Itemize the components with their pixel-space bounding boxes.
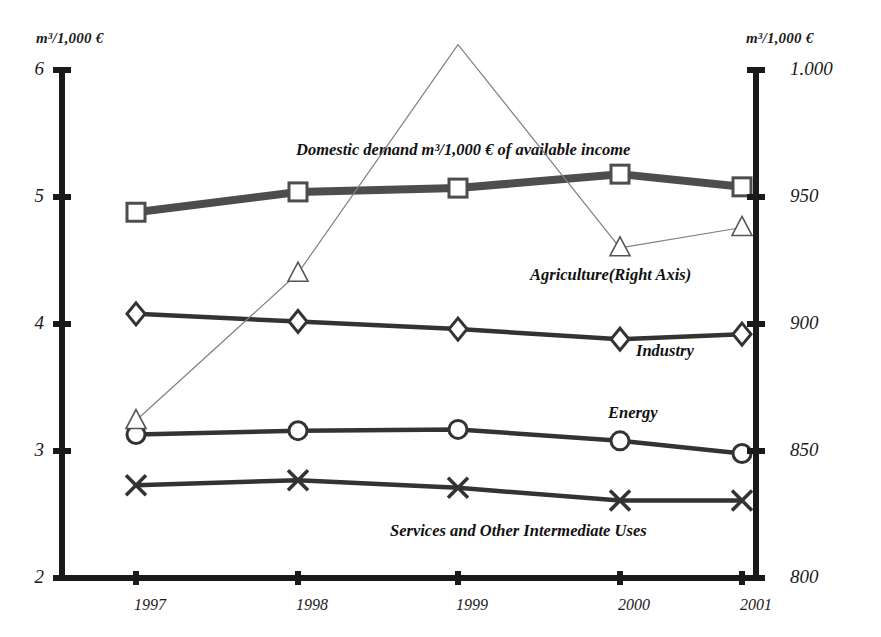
triangle-marker [126, 410, 146, 429]
data-point-square [127, 203, 145, 221]
triangle-marker [732, 216, 752, 235]
chart-figure: m³/1,000 € m³/1,000 € 6 5 4 3 2 1.000 95… [0, 0, 881, 637]
series-square [127, 165, 751, 221]
square-marker [127, 203, 145, 221]
data-point-circle [289, 422, 307, 440]
series-line [136, 429, 742, 453]
data-point-square [733, 178, 751, 196]
plot-canvas [0, 0, 881, 637]
square-marker [289, 183, 307, 201]
data-point-triangle [126, 410, 146, 429]
data-point-diamond [127, 303, 145, 325]
circle-marker [289, 422, 307, 440]
series-circle [127, 420, 751, 462]
circle-marker [611, 432, 629, 450]
data-point-diamond [611, 328, 629, 350]
square-marker [611, 165, 629, 183]
diamond-marker [611, 328, 629, 350]
diamond-marker [449, 318, 467, 340]
data-point-triangle [288, 262, 308, 281]
series-cross [126, 470, 752, 510]
series-line [136, 314, 742, 339]
data-point-square [449, 179, 467, 197]
triangle-marker [288, 262, 308, 281]
data-point-diamond [289, 310, 307, 332]
data-point-square [289, 183, 307, 201]
diamond-marker [289, 310, 307, 332]
data-point-triangle [732, 216, 752, 235]
circle-marker [449, 420, 467, 438]
data-point-circle [611, 432, 629, 450]
series-triangle [126, 45, 752, 429]
diamond-marker [127, 303, 145, 325]
series-line [136, 174, 742, 212]
data-point-circle [449, 420, 467, 438]
series-line [136, 480, 742, 500]
series-layer [126, 45, 752, 511]
series-line [136, 45, 742, 421]
data-point-diamond [449, 318, 467, 340]
data-point-square [611, 165, 629, 183]
square-marker [449, 179, 467, 197]
square-marker [733, 178, 751, 196]
